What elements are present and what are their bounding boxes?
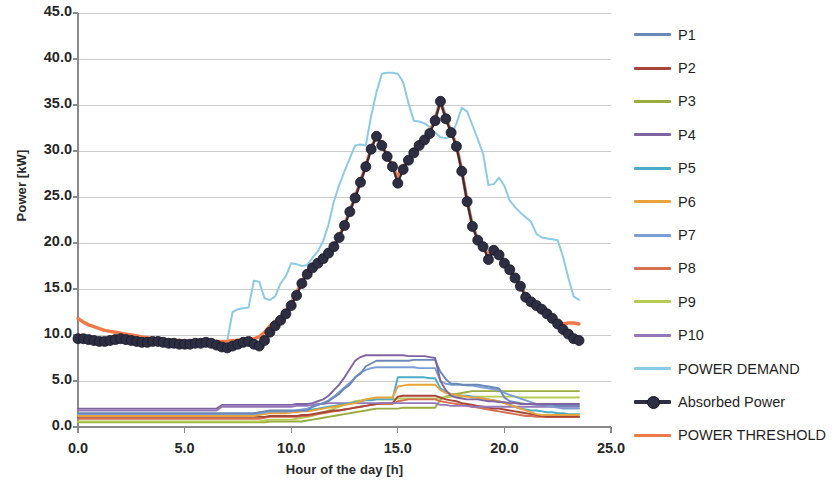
x-tick-label: 10.0: [277, 440, 305, 456]
y-tick-label: 10.0: [16, 325, 72, 341]
x-axis-title: Hour of the day [h]: [78, 462, 611, 477]
legend-item-label: P7: [678, 227, 696, 243]
legend-item-label: P1: [678, 27, 696, 43]
legend-item-p7[interactable]: P7: [634, 218, 834, 251]
legend-item-label: POWER THRESHOLD: [678, 427, 826, 443]
y-tick-label: 15.0: [16, 279, 72, 295]
y-tick-label: 0.0: [16, 417, 72, 433]
legend-swatch-icon: [634, 395, 671, 409]
chart-legend: P1P2P3P4P5P6P7P8P9P10POWER DEMANDAbsorbe…: [634, 18, 834, 452]
legend-item-label: P5: [678, 160, 696, 176]
legend-swatch-icon: [634, 195, 671, 209]
legend-swatch-icon: [634, 61, 671, 75]
legend-item-label: P3: [678, 93, 696, 109]
legend-item-power-threshold[interactable]: POWER THRESHOLD: [634, 419, 834, 452]
legend-item-p3[interactable]: P3: [634, 85, 834, 118]
legend-swatch-icon: [634, 161, 671, 175]
legend-item-p8[interactable]: P8: [634, 252, 834, 285]
legend-item-label: P8: [678, 260, 696, 276]
legend-swatch-icon: [634, 228, 671, 242]
legend-item-label: POWER DEMAND: [678, 361, 800, 377]
legend-item-p4[interactable]: P4: [634, 118, 834, 151]
legend-item-p2[interactable]: P2: [634, 51, 834, 84]
legend-item-label: P4: [678, 127, 696, 143]
y-axis-title: Power [kW]: [14, 121, 29, 251]
legend-swatch-icon: [634, 28, 671, 42]
legend-swatch-icon: [634, 128, 671, 142]
x-tick-label: 25.0: [597, 440, 625, 456]
x-tick-label: 0.0: [68, 440, 88, 456]
series-power-demand: [78, 73, 579, 347]
legend-item-absorbed-power[interactable]: Absorbed Power: [634, 385, 834, 418]
y-tick-label: 45.0: [16, 3, 72, 19]
y-tick-label: 5.0: [16, 371, 72, 387]
legend-item-power-demand[interactable]: POWER DEMAND: [634, 352, 834, 385]
x-axis-tick-labels: 0.05.010.015.020.025.0: [0, 432, 700, 458]
legend-item-p1[interactable]: P1: [634, 18, 834, 51]
legend-swatch-icon: [634, 428, 671, 442]
legend-marker-icon: [647, 396, 660, 409]
y-tick-label: 35.0: [16, 95, 72, 111]
legend-swatch-icon: [634, 362, 671, 376]
legend-item-p10[interactable]: P10: [634, 319, 834, 352]
legend-item-p5[interactable]: P5: [634, 152, 834, 185]
legend-swatch-icon: [634, 261, 671, 275]
y-tick-label: 40.0: [16, 49, 72, 65]
x-tick-label: 5.0: [175, 440, 195, 456]
power-profile-chart: 0.05.010.015.020.025.030.035.040.045.0 0…: [0, 0, 834, 495]
x-tick-label: 15.0: [384, 440, 412, 456]
legend-swatch-icon: [634, 328, 671, 342]
legend-item-label: P9: [678, 294, 696, 310]
series-p1: [78, 360, 579, 413]
legend-item-label: P10: [678, 327, 704, 343]
legend-item-label: Absorbed Power: [678, 394, 785, 410]
legend-item-p6[interactable]: P6: [634, 185, 834, 218]
legend-item-p9[interactable]: P9: [634, 285, 834, 318]
legend-item-label: P6: [678, 194, 696, 210]
legend-swatch-icon: [634, 295, 671, 309]
x-tick-label: 20.0: [490, 440, 518, 456]
legend-item-label: P2: [678, 60, 696, 76]
legend-swatch-icon: [634, 94, 671, 108]
